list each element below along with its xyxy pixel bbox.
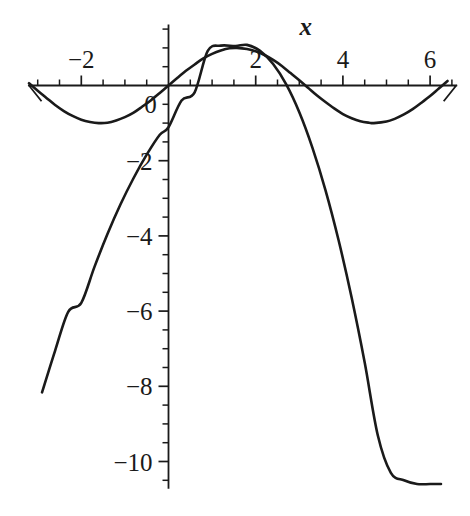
x-axis-line: [29, 86, 456, 101]
y-tick-label: −8: [126, 373, 153, 400]
plot-canvas: −2246 −2−4−6−8−10 0 x: [0, 0, 470, 516]
y-axis-ticks: [159, 29, 169, 480]
x-tick-label: 4: [337, 46, 350, 73]
plot-figure: −2246 −2−4−6−8−10 0 x: [0, 0, 470, 516]
curve-parabola: [42, 45, 441, 485]
x-axis-group: −2246: [29, 46, 456, 101]
y-tick-label: −10: [113, 449, 152, 476]
y-axis-tick-labels: −2−4−6−8−10: [113, 148, 153, 476]
data-curves: [29, 45, 448, 485]
y-tick-label: −4: [126, 223, 153, 250]
x-axis-label: x: [299, 13, 313, 40]
y-tick-label: −6: [126, 298, 153, 325]
y-axis-group: −2−4−6−8−10: [113, 25, 168, 487]
x-tick-label: 6: [424, 46, 437, 73]
x-tick-label: −2: [68, 46, 95, 73]
x-axis-ticks: [38, 76, 452, 86]
